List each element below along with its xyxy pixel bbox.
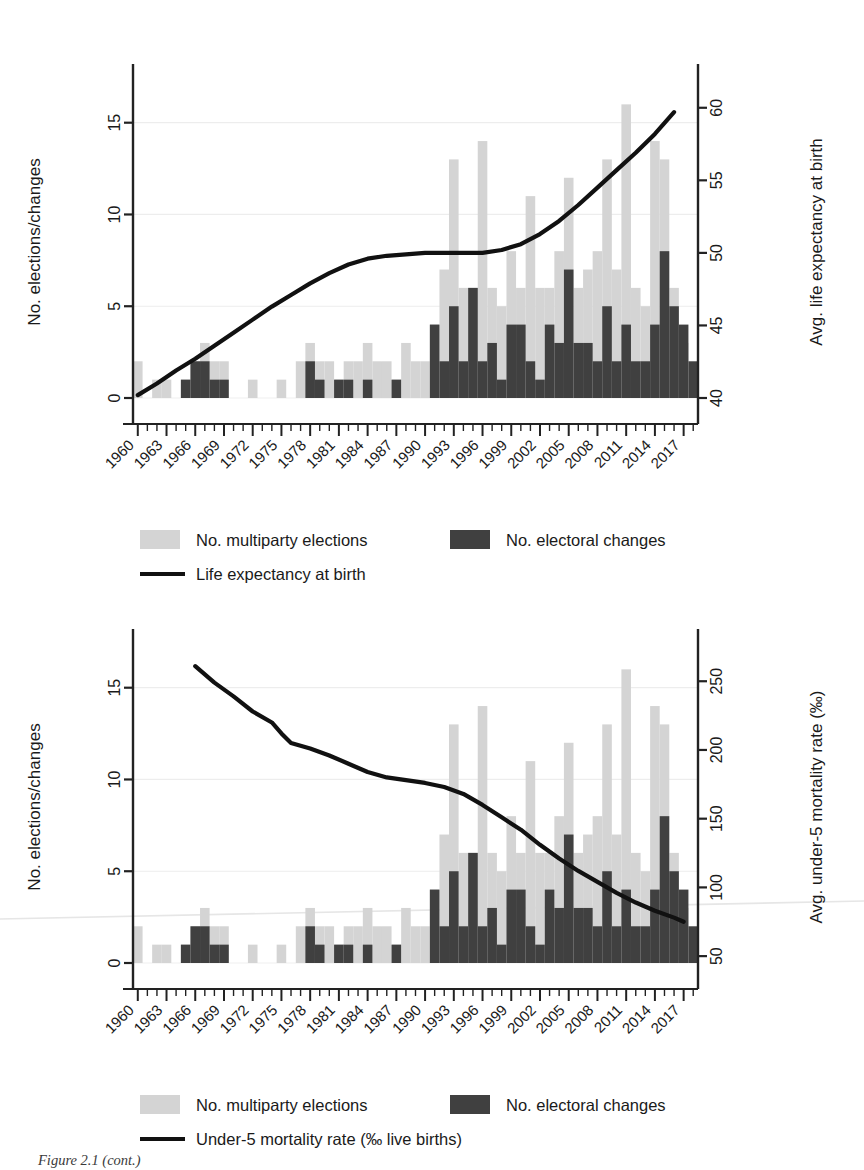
- bar-electoral-changes: [583, 343, 593, 398]
- bar-electoral-changes: [506, 890, 516, 963]
- legend-label-line: Under-5 mortality rate (‰ live births): [196, 1130, 462, 1148]
- bar-electoral-changes: [669, 306, 679, 398]
- bar-electoral-changes: [478, 926, 488, 963]
- legend-swatch-electoral-changes: [450, 530, 490, 549]
- bar-electoral-changes: [554, 908, 564, 963]
- bar-multiparty-elections: [162, 380, 172, 398]
- bar-electoral-changes: [449, 306, 459, 398]
- x-tick-label: 2002: [503, 1001, 539, 1037]
- x-tick-label: 2014: [618, 1001, 654, 1037]
- bar-multiparty-elections: [353, 361, 363, 398]
- x-tick-label: 1999: [475, 1001, 511, 1037]
- bar-electoral-changes: [593, 361, 603, 398]
- legend-label-electoral-changes: No. electoral changes: [506, 531, 666, 549]
- x-tick-label: 1978: [274, 1001, 310, 1037]
- y-right-tick-label: 50: [708, 947, 725, 965]
- bar-electoral-changes: [439, 926, 449, 963]
- bar-electoral-changes: [688, 926, 698, 963]
- bar-electoral-changes: [621, 325, 631, 398]
- bar-multiparty-elections: [372, 361, 382, 398]
- bar-multiparty-elections: [478, 706, 488, 963]
- bar-multiparty-elections: [478, 141, 488, 398]
- chart-panel-top: 0510154045505560196019631966196919721975…: [0, 0, 864, 600]
- y-right-tick-label: 100: [708, 874, 725, 901]
- x-tick-label: 1984: [331, 1001, 367, 1037]
- bar-electoral-changes: [554, 343, 564, 398]
- bar-electoral-changes: [190, 361, 200, 398]
- chart-svg-under5-mortality: 0510155010015020025019601963196619691972…: [0, 565, 864, 1170]
- bar-electoral-changes: [660, 816, 670, 963]
- bar-multiparty-elections: [372, 926, 382, 963]
- bar-multiparty-elections: [248, 945, 258, 963]
- legend-swatch-multiparty-elections: [140, 1095, 180, 1114]
- legend-label-multiparty-elections: No. multiparty elections: [196, 531, 368, 549]
- bar-electoral-changes: [526, 361, 536, 398]
- x-tick-label: 1987: [360, 436, 396, 472]
- x-tick-label: 1966: [159, 1001, 195, 1037]
- x-tick-label: 2017: [647, 1001, 683, 1037]
- x-tick-label: 1975: [245, 1001, 281, 1037]
- y-right-tick-label: 50: [708, 244, 725, 262]
- legend-swatch-electoral-changes: [450, 1095, 490, 1114]
- y-left-tick-label: 10: [106, 205, 123, 223]
- y-right-tick-label: 150: [708, 805, 725, 832]
- x-tick-label: 2005: [532, 436, 568, 472]
- x-tick-label: 1993: [417, 1001, 453, 1037]
- bar-multiparty-elections: [420, 361, 430, 398]
- bar-electoral-changes: [516, 325, 526, 398]
- bar-multiparty-elections: [277, 380, 287, 398]
- bar-electoral-changes: [574, 343, 584, 398]
- bar-multiparty-elections: [277, 945, 287, 963]
- bar-multiparty-elections: [325, 926, 335, 963]
- legend-label-electoral-changes: No. electoral changes: [506, 1096, 666, 1114]
- bar-multiparty-elections: [411, 926, 421, 963]
- bar-electoral-changes: [650, 890, 660, 963]
- x-tick-label: 1981: [302, 436, 338, 472]
- bar-electoral-changes: [574, 908, 584, 963]
- x-tick-label: 1963: [130, 436, 166, 472]
- bar-multiparty-elections: [162, 945, 172, 963]
- y-axis-title-left: No. elections/changes: [25, 723, 44, 890]
- bar-electoral-changes: [210, 380, 220, 398]
- bar-multiparty-elections: [382, 926, 392, 963]
- bar-electoral-changes: [468, 853, 478, 963]
- bar-electoral-changes: [660, 251, 670, 398]
- figure-caption: Figure 2.1 (cont.): [38, 1152, 141, 1169]
- x-tick-label: 1981: [302, 1001, 338, 1037]
- bars-group: [133, 669, 698, 963]
- bar-electoral-changes: [679, 325, 689, 398]
- chart-panel-bottom: 0510155010015020025019601963196619691972…: [0, 565, 864, 1170]
- legend-label-multiparty-elections: No. multiparty elections: [196, 1096, 368, 1114]
- bar-electoral-changes: [602, 306, 612, 398]
- x-tick-label: 1960: [101, 436, 137, 472]
- y-left-tick-label: 15: [106, 679, 123, 697]
- y-left-tick-label: 0: [106, 958, 123, 967]
- bar-electoral-changes: [631, 361, 641, 398]
- bar-electoral-changes: [344, 945, 354, 963]
- bar-multiparty-elections: [296, 361, 306, 398]
- x-tick-label: 2008: [561, 1001, 597, 1037]
- bar-electoral-changes: [468, 288, 478, 398]
- y-right-tick-label: 60: [708, 99, 725, 117]
- bar-electoral-changes: [219, 380, 229, 398]
- x-tick-label: 2011: [590, 436, 625, 471]
- legend: No. multiparty electionsNo. electoral ch…: [140, 1095, 666, 1148]
- x-tick-label: 1996: [446, 1001, 482, 1037]
- bar-electoral-changes: [334, 380, 344, 398]
- bar-electoral-changes: [583, 908, 593, 963]
- bar-electoral-changes: [631, 926, 641, 963]
- y-axis-title-right: Avg. life expectancy at birth: [807, 138, 826, 346]
- bar-electoral-changes: [564, 835, 574, 963]
- bar-electoral-changes: [363, 380, 373, 398]
- x-tick-label: 1969: [187, 1001, 223, 1037]
- bar-electoral-changes: [305, 361, 315, 398]
- bar-electoral-changes: [344, 380, 354, 398]
- y-left-tick-label: 5: [106, 302, 123, 311]
- x-tick-label: 1960: [101, 1001, 137, 1037]
- bar-electoral-changes: [315, 380, 325, 398]
- x-tick-label: 1969: [187, 436, 223, 472]
- bar-electoral-changes: [516, 890, 526, 963]
- bar-electoral-changes: [545, 325, 555, 398]
- bar-multiparty-elections: [152, 945, 162, 963]
- bar-multiparty-elections: [296, 926, 306, 963]
